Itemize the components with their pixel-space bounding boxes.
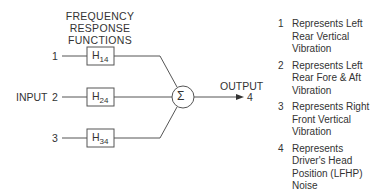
h34-to-sum-line [114,107,177,138]
legend-number: 1 [278,18,292,56]
output-number: 4 [247,91,253,103]
output-label: OUTPUT [220,80,263,92]
h24-label: H24 [92,90,109,107]
legend-text: Represents Left Rear Vertical Vibration [292,18,376,56]
legend-text: Represents Right Front Vertical Vibratio… [292,101,376,139]
legend-number: 4 [278,143,292,190]
sigma-icon: Σ [177,90,184,102]
output-arrow-icon [236,94,244,100]
legend-item: 3 Represents Right Front Vertical Vibrat… [278,101,385,139]
input-label: INPUT [16,91,48,103]
legend-number: 3 [278,101,292,139]
h14-to-sum-line [114,56,177,87]
input-1-number: 1 [52,50,58,62]
h14-label: H14 [92,49,109,66]
legend: 1 Represents Left Rear Vertical Vibratio… [278,18,385,189]
legend-item: 1 Represents Left Rear Vertical Vibratio… [278,18,385,56]
legend-number: 2 [278,60,292,98]
legend-item: 2 Represents Left Rear Fore & Aft Vibrat… [278,60,385,98]
h34-label: H34 [92,131,109,148]
legend-text: Represents Driver's Head Position (LFHP)… [292,143,376,190]
legend-item: 4 Represents Driver's Head Position (LFH… [278,143,385,190]
input-3-number: 3 [52,132,58,144]
input-2-number: 2 [52,91,58,103]
legend-text: Represents Left Rear Fore & Aft Vibratio… [292,60,376,98]
